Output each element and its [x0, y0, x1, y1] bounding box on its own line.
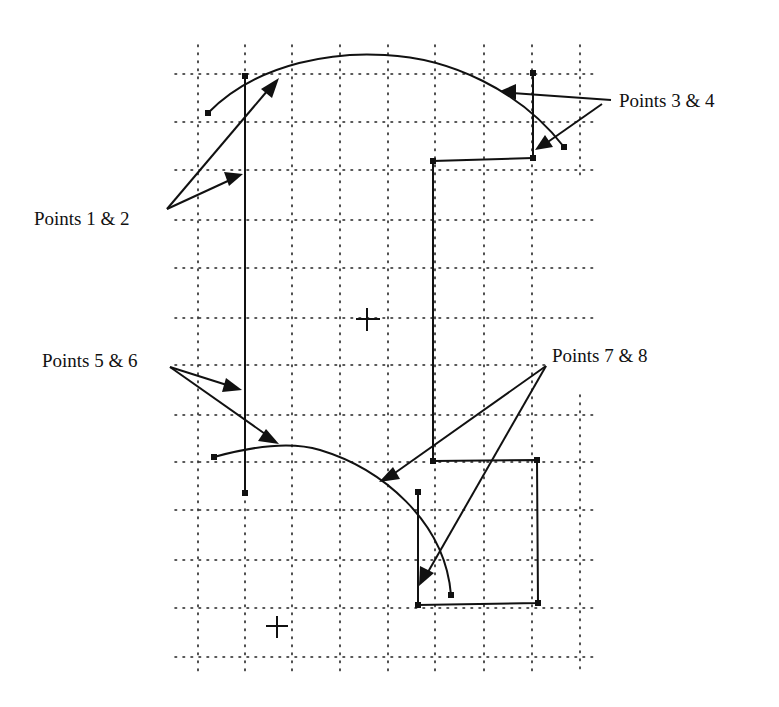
bracket-corner-top-right[interactable]: [530, 155, 536, 161]
arrowhead-icon: [419, 566, 434, 586]
points-5-6-arrows: [170, 367, 279, 444]
upper-curve-end-point[interactable]: [561, 144, 567, 150]
dotted-grid: [175, 45, 598, 675]
bracket-shape: [418, 158, 538, 605]
lower-curve-end-point[interactable]: [448, 592, 454, 598]
arrowhead-icon: [535, 135, 553, 150]
points-7-8-arrows: [379, 366, 546, 586]
points-1-2-arrows: [167, 78, 279, 209]
bracket-end-point[interactable]: [415, 489, 421, 495]
arrowhead-icon: [500, 84, 516, 100]
label-points-7-8: Points 7 & 8: [552, 346, 648, 365]
label-points-1-2: Points 1 & 2: [34, 209, 130, 228]
bracket-corner-top-left[interactable]: [430, 158, 436, 164]
points-3-4-arrows: [500, 84, 611, 150]
bracket-corner-mid-right[interactable]: [534, 457, 540, 463]
bracket-corner-mid-left[interactable]: [430, 458, 436, 464]
bracket-corner-bottom-left[interactable]: [415, 602, 421, 608]
arrowhead-icon: [222, 378, 242, 392]
label-points-3-4: Points 3 & 4: [619, 91, 715, 110]
lower-bezier-curve: [214, 446, 451, 595]
arrowhead-icon: [379, 467, 400, 482]
left-control-bottom-point[interactable]: [242, 490, 248, 496]
upper-curve-start-point[interactable]: [205, 110, 211, 116]
origin-crosshair-icon: [266, 616, 288, 638]
left-control-top-point[interactable]: [242, 73, 248, 79]
bracket-corner-bottom-right[interactable]: [535, 600, 541, 606]
upper-bezier-curve: [208, 54, 564, 147]
label-points-5-6: Points 5 & 6: [42, 351, 138, 370]
right-upper-control-top-point[interactable]: [530, 70, 536, 76]
center-crosshair-icon: [356, 308, 380, 331]
lower-curve-start-point[interactable]: [211, 454, 217, 460]
arrowhead-icon: [224, 172, 243, 186]
